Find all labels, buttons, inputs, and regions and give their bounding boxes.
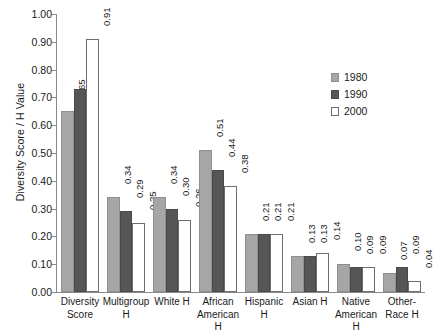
x-axis-line [56,292,425,293]
x-axis-category-label: Other-Race H [376,296,428,321]
bar[interactable]: 0.51 [199,150,212,292]
bar[interactable]: 0.09 [396,267,409,292]
legend-item[interactable]: 1980 [331,70,401,85]
y-axis-tick-label: 0.70 [22,92,52,102]
y-axis-tick-label: 1.00 [22,9,52,19]
bar-value-label: 0.21 [261,202,271,221]
y-axis-tick-label: 0.10 [22,259,52,269]
x-axis-category-labels: DiversityScoreMultigroupHWhite HAfricanA… [57,296,425,336]
bar-group: 0.510.440.38 [199,14,237,292]
plot-area: 0.650.730.910.340.290.250.340.300.260.51… [57,14,425,292]
x-axis-category-label: DiversityScore [54,296,106,321]
bar[interactable]: 0.29 [120,211,133,292]
bar-value-label: 0.13 [319,224,329,243]
legend-label: 2000 [344,106,367,117]
bar-value-label: 0.09 [411,235,421,254]
bar-value-label: 0.13 [307,224,317,243]
y-axis-tick-label: 0.20 [22,231,52,241]
legend-swatch [331,90,339,99]
bar[interactable]: 0.30 [166,209,179,292]
y-axis-tick-labels: 1.000.900.800.700.600.500.400.300.200.10… [22,0,52,336]
bar[interactable]: 0.09 [350,267,363,292]
x-axis-category-label: NativeAmerican H [330,296,382,334]
bar-value-label: 0.07 [399,241,409,260]
bar[interactable]: 0.44 [212,170,225,292]
x-axis-category-label: MultigroupH [100,296,152,321]
bar-value-label: 0.51 [215,119,225,138]
bar[interactable]: 0.07 [383,273,396,292]
bar[interactable]: 0.04 [408,281,421,292]
bar[interactable]: 0.21 [245,234,258,292]
y-axis-tick-mark [52,264,57,265]
y-axis-tick-label: 0.00 [22,287,52,297]
y-axis-tick-label: 0.40 [22,176,52,186]
y-axis-tick-label: 0.60 [22,120,52,130]
bar-value-label: 0.34 [123,166,133,185]
bar-value-label: 0.30 [181,177,191,196]
bar-value-label: 0.09 [365,235,375,254]
bar[interactable]: 0.25 [132,223,145,293]
bar-value-label: 0.10 [353,233,363,252]
bar[interactable]: 0.91 [86,39,99,292]
x-axis-category-label: Asian H [284,296,336,309]
y-axis-tick-mark [52,97,57,98]
bar-chart: Diversity Score / H Value 1.000.900.800.… [0,0,435,336]
legend-label: 1990 [344,89,367,100]
bar-value-label: 0.29 [135,180,145,199]
legend: 198019902000 [331,70,401,121]
bar-group: 0.650.730.91 [61,14,99,292]
x-axis-category-label: White H [146,296,198,309]
bar-value-label: 0.21 [273,202,283,221]
bar-group: 0.070.090.04 [383,14,421,292]
x-axis-category-label: AfricanAmerican H [192,296,244,334]
y-axis-tick-label: 0.50 [22,148,52,158]
y-axis-tick-mark [52,153,57,154]
y-axis-tick-mark [52,14,57,15]
y-axis-tick-mark [52,42,57,43]
x-axis-category-label: HispanicH [238,296,290,321]
legend-swatch [331,107,339,116]
bar[interactable]: 0.65 [61,111,74,292]
bar[interactable]: 0.10 [337,264,350,292]
bar[interactable]: 0.26 [178,220,191,292]
bar-group: 0.340.290.25 [107,14,145,292]
bar[interactable]: 0.38 [224,186,237,292]
bar[interactable]: 0.34 [107,197,120,292]
bar[interactable]: 0.13 [304,256,317,292]
bar-group: 0.130.130.14 [291,14,329,292]
y-axis-tick-mark [52,181,57,182]
bar[interactable]: 0.21 [270,234,283,292]
y-axis-tick-label: 0.30 [22,204,52,214]
bar-group: 0.100.090.09 [337,14,375,292]
legend-item[interactable]: 1990 [331,87,401,102]
legend-label: 1980 [344,72,367,83]
y-axis-tick-mark [52,125,57,126]
bar-group: 0.210.210.21 [245,14,283,292]
y-axis-tick-mark [52,209,57,210]
bar[interactable]: 0.73 [74,89,87,292]
y-axis-tick-label: 0.90 [22,37,52,47]
y-axis-tick-label: 0.80 [22,65,52,75]
bar-value-label: 0.44 [227,138,237,157]
y-axis-tick-mark [52,292,57,293]
bar-value-label: 0.34 [169,166,179,185]
y-axis-tick-mark [52,236,57,237]
legend-swatch [331,73,339,82]
bar[interactable]: 0.34 [153,197,166,292]
bar[interactable]: 0.21 [258,234,271,292]
bar-group: 0.340.300.26 [153,14,191,292]
legend-item[interactable]: 2000 [331,104,401,119]
bar-value-label: 0.04 [424,249,434,268]
bar[interactable]: 0.14 [316,253,329,292]
bar[interactable]: 0.09 [362,267,375,292]
y-axis-tick-mark [52,70,57,71]
bar[interactable]: 0.13 [291,256,304,292]
